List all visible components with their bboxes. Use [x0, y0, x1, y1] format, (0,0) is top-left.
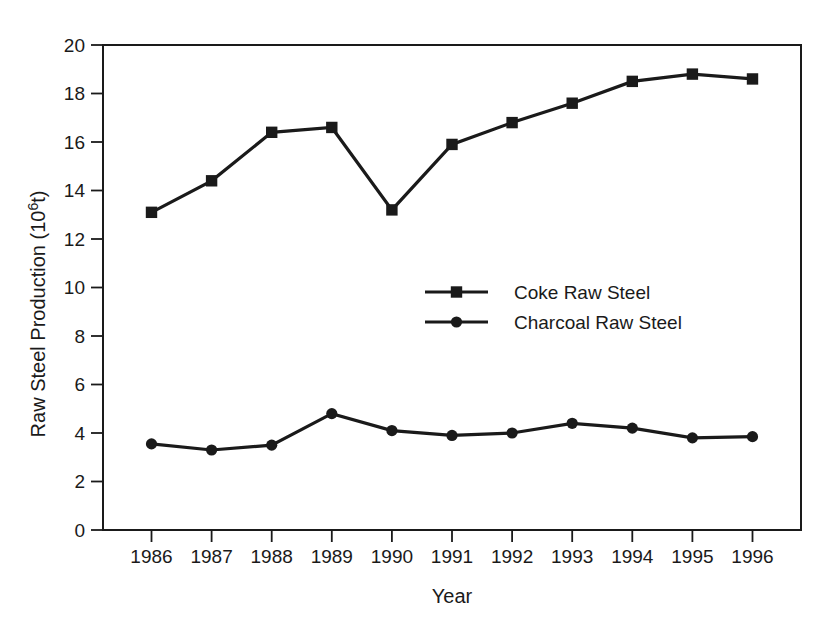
y-axis-tick-label: 18	[64, 83, 85, 104]
legend-label: Coke Raw Steel	[514, 282, 650, 303]
data-point-square-marker	[206, 175, 217, 186]
data-point-square-marker	[567, 98, 578, 109]
data-point-circle-marker	[627, 423, 638, 434]
data-point-square-marker	[326, 122, 337, 133]
y-axis-tick-label: 6	[74, 374, 85, 395]
data-point-circle-marker	[386, 425, 397, 436]
data-point-circle-marker	[506, 427, 517, 438]
data-point-circle-marker	[206, 444, 217, 455]
x-axis-tick-label: 1996	[731, 546, 773, 567]
x-axis-tick-label: 1990	[371, 546, 413, 567]
x-axis-tick-label: 1994	[611, 546, 654, 567]
scanned-figure-page: 0246810121416182019861987198819891990199…	[0, 0, 833, 636]
y-axis-tick-label: 14	[64, 180, 86, 201]
y-axis-tick-label: 20	[64, 35, 85, 56]
y-axis-tick-label: 10	[64, 277, 85, 298]
x-axis-title: Year	[432, 585, 473, 607]
x-axis-tick-label: 1986	[130, 546, 172, 567]
data-point-square-marker	[687, 68, 698, 79]
y-axis-title: Raw Steel Production (106t)	[25, 191, 49, 438]
x-axis-tick-label: 1995	[671, 546, 713, 567]
y-axis-tick-label: 0	[74, 520, 85, 541]
x-axis-tick-label: 1991	[431, 546, 473, 567]
x-axis-tick-label: 1993	[551, 546, 593, 567]
x-axis-tick-label: 1988	[251, 546, 293, 567]
data-point-circle-marker	[747, 431, 758, 442]
legend-entry: Charcoal Raw Steel	[425, 312, 682, 333]
x-axis-tick-label: 1992	[491, 546, 533, 567]
data-point-circle-marker	[567, 418, 578, 429]
y-axis-tick-label: 12	[64, 229, 85, 250]
y-axis-tick-label: 2	[74, 471, 85, 492]
y-axis-tick-label: 8	[74, 326, 85, 347]
data-point-square-marker	[386, 204, 397, 215]
data-point-square-marker	[146, 207, 157, 218]
legend-entry: Coke Raw Steel	[425, 282, 650, 303]
x-axis-tick-label: 1989	[311, 546, 353, 567]
data-point-square-marker	[506, 117, 517, 128]
legend-square-marker-icon	[451, 286, 462, 297]
data-point-square-marker	[446, 139, 457, 150]
data-point-square-marker	[266, 127, 277, 138]
data-point-circle-marker	[687, 432, 698, 443]
y-axis-tick-label: 4	[74, 423, 85, 444]
data-point-circle-marker	[446, 430, 457, 441]
y-axis-tick-label: 16	[64, 132, 85, 153]
data-point-circle-marker	[326, 408, 337, 419]
data-point-square-marker	[747, 73, 758, 84]
data-point-circle-marker	[266, 440, 277, 451]
data-point-square-marker	[627, 76, 638, 87]
data-point-circle-marker	[146, 438, 157, 449]
raw-steel-production-line-chart: 0246810121416182019861987198819891990199…	[0, 0, 833, 636]
legend-label: Charcoal Raw Steel	[514, 312, 682, 333]
legend-circle-marker-icon	[451, 316, 462, 327]
x-axis-tick-label: 1987	[190, 546, 232, 567]
